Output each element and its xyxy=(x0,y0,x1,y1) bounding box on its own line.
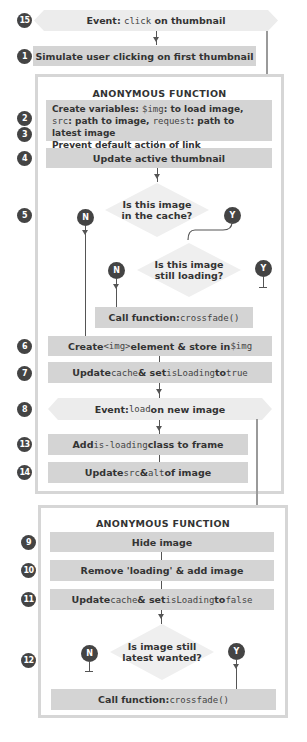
step-remove-loading: Remove 'loading' & add image xyxy=(50,560,274,581)
connector-line xyxy=(161,552,162,560)
step-call-crossfade-2: Call function: crossfade() xyxy=(51,689,276,710)
step-number-4: 4 xyxy=(17,151,32,166)
step-number-1: 1 xyxy=(17,49,32,64)
no-badge: N xyxy=(108,262,125,279)
step-number-10: 10 xyxy=(21,563,36,578)
step-number-12: 12 xyxy=(21,653,36,668)
event-load-image: Event: load on new image xyxy=(48,398,272,420)
yes-badge: Y xyxy=(228,643,245,660)
connector-line xyxy=(263,277,264,287)
step-update-cache-true: Update cache & set isLoading to true xyxy=(48,362,272,383)
arrow-down-icon xyxy=(82,230,88,235)
connector-line xyxy=(256,419,258,506)
step-number-11: 11 xyxy=(21,592,36,607)
yes-connector xyxy=(185,222,235,244)
arrow-down-icon xyxy=(156,389,162,394)
no-badge: N xyxy=(81,645,98,662)
arrow-down-icon xyxy=(154,174,160,179)
step-hide-image: Hide image xyxy=(50,532,274,552)
yes-badge: Y xyxy=(255,260,272,277)
no-badge: N xyxy=(77,209,94,226)
step-number-8: 8 xyxy=(17,402,32,417)
step-update-thumbnail: Update active thumbnail xyxy=(46,148,272,168)
arrow-down-icon xyxy=(233,664,239,669)
step-number-9: 9 xyxy=(21,535,36,550)
end-terminator xyxy=(85,671,93,672)
step-simulate-click: Simulate user clicking on first thumbnai… xyxy=(33,46,256,66)
arrow-down-icon xyxy=(113,284,119,289)
step-add-is-loading: Add is-loading class to frame xyxy=(48,434,248,455)
step-number-3: 3 xyxy=(17,127,32,142)
step-number-13: 13 xyxy=(17,437,32,452)
arrow-down-icon xyxy=(156,426,162,431)
step-update-src-alt: Update src & alt of image xyxy=(48,462,248,483)
connector-line xyxy=(266,30,268,76)
step-number-6: 6 xyxy=(17,339,32,354)
arrow-down-icon xyxy=(153,37,159,42)
step-create-variables: Create variables: $img: to load image, s… xyxy=(46,100,272,141)
frame-title: ANONYMOUS FUNCTION xyxy=(38,88,281,99)
step-number-2: 2 xyxy=(17,111,32,126)
frame-title: ANONYMOUS FUNCTION xyxy=(41,518,285,529)
step-number-15: 15 xyxy=(17,13,32,28)
step-number-7: 7 xyxy=(17,366,32,381)
event-click-thumbnail: Event: click on thumbnail xyxy=(34,10,278,31)
step-create-img: Create <img> element & store in $img xyxy=(48,336,272,356)
connector-line xyxy=(89,661,90,671)
step-number-14: 14 xyxy=(17,465,32,480)
step-update-cache-false: Update cache & set isLoading to false xyxy=(50,589,274,610)
connector-line xyxy=(161,581,162,589)
end-terminator xyxy=(259,287,267,288)
arrow-down-icon xyxy=(158,614,164,619)
step-number-5: 5 xyxy=(17,208,32,223)
step-call-crossfade: Call function: crossfade() xyxy=(95,307,253,328)
connector-line xyxy=(85,226,86,337)
